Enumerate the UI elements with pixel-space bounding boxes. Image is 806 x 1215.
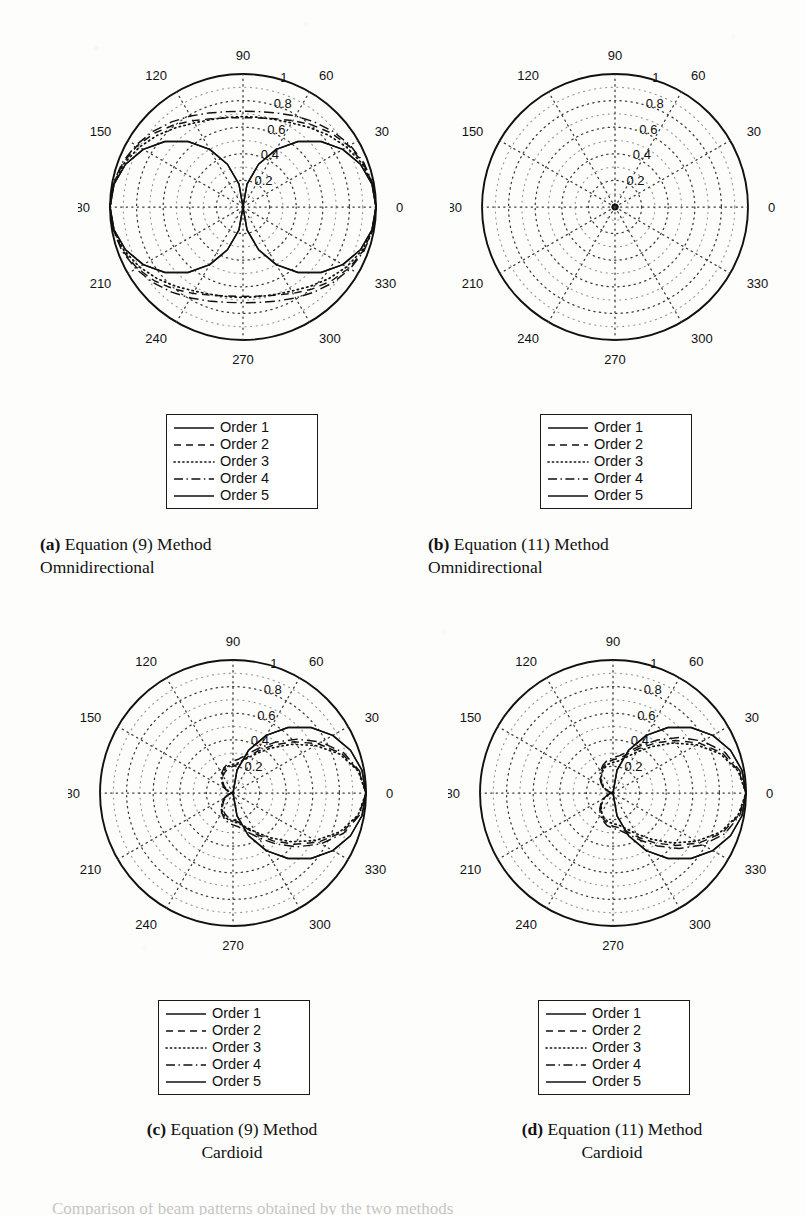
legend-d: Order 1Order 2Order 3Order 4Order 5 — [538, 1000, 690, 1095]
subcaption-a-line1: Equation (9) Method — [65, 534, 212, 554]
grid-spoke-240deg — [547, 793, 614, 908]
legend-line-sample-solid-icon — [547, 422, 589, 434]
grid-spoke-210deg — [128, 207, 243, 274]
subcaption-d: (d) Equation (11) Method Cardioid — [422, 1118, 802, 1164]
grid-spoke-330deg — [233, 793, 348, 860]
legend-a: Order 1Order 2Order 3Order 4Order 5 — [166, 414, 318, 509]
legend-row-1: Order 1 — [545, 1005, 682, 1022]
radial-label-0.2: 0.2 — [624, 759, 642, 774]
legend-row-2: Order 2 — [165, 1022, 302, 1039]
legend-label-3: Order 3 — [594, 454, 643, 469]
legend-row-5: Order 5 — [547, 487, 684, 504]
radial-label-0.2: 0.2 — [254, 173, 272, 188]
polar-axes-d: 03060901201501802102402703003300.20.40.6… — [448, 628, 778, 958]
radial-label-1: 1 — [280, 70, 287, 85]
subcaption-a-line2: Omnidirectional — [40, 556, 420, 579]
radial-tick-labels: 0.20.40.60.81 — [626, 70, 663, 188]
angle-label-270: 270 — [604, 352, 626, 367]
radial-label-1: 1 — [270, 656, 277, 671]
polar-axes-b: 03060901201501802102402703003300.20.40.6… — [450, 42, 780, 372]
legend-line-sample-dashed-icon — [545, 1025, 587, 1037]
legend-label-2: Order 2 — [594, 437, 643, 452]
angle-label-180: 180 — [68, 786, 80, 801]
subcaption-d-line1: Equation (11) Method — [547, 1119, 702, 1139]
angle-label-150: 150 — [460, 710, 482, 725]
legend-row-3: Order 3 — [173, 453, 310, 470]
legend-line-sample-dotted-icon — [545, 1042, 587, 1054]
legend-label-4: Order 4 — [212, 1057, 261, 1072]
legend-row-1: Order 1 — [173, 419, 310, 436]
grid-spoke-330deg — [243, 207, 358, 274]
legend-line-sample-solid-icon — [165, 1008, 207, 1020]
legend-line-sample-dashed-icon — [547, 439, 589, 451]
radial-label-0.8: 0.8 — [646, 96, 664, 111]
subcaption-a-tag: (a) — [40, 534, 60, 554]
angle-label-30: 30 — [375, 124, 389, 139]
legend-row-2: Order 2 — [545, 1022, 682, 1039]
radial-label-0.4: 0.4 — [633, 147, 651, 162]
polar-grid — [482, 74, 748, 340]
legend-label-1: Order 1 — [220, 420, 269, 435]
angle-label-90: 90 — [606, 634, 620, 649]
legend-row-1: Order 1 — [165, 1005, 302, 1022]
radial-label-0.6: 0.6 — [257, 708, 275, 723]
grid-spoke-120deg — [547, 678, 614, 793]
legend-row-5: Order 5 — [173, 487, 310, 504]
radial-label-0.6: 0.6 — [267, 122, 285, 137]
legend-line-sample-dashdot-icon — [545, 1059, 587, 1071]
angle-label-30: 30 — [747, 124, 761, 139]
subcaption-b: (b) Equation (11) Method Omnidirectional — [428, 533, 806, 579]
angle-label-60: 60 — [319, 68, 333, 83]
radial-label-0.6: 0.6 — [637, 708, 655, 723]
legend-label-2: Order 2 — [212, 1023, 261, 1038]
angle-label-240: 240 — [517, 331, 539, 346]
subcaption-b-line1: Equation (11) Method — [454, 534, 609, 554]
legend-label-3: Order 3 — [212, 1040, 261, 1055]
angle-label-330: 330 — [365, 862, 387, 877]
legend-label-1: Order 1 — [592, 1006, 641, 1021]
legend-b: Order 1Order 2Order 3Order 4Order 5 — [540, 414, 692, 509]
figure-caption-cutoff-text: Comparison of beam patterns obtained by … — [52, 1203, 806, 1215]
legend-label-5: Order 5 — [212, 1074, 261, 1089]
angle-label-60: 60 — [691, 68, 705, 83]
grid-spoke-210deg — [498, 793, 613, 860]
legend-line-sample-solid-icon — [173, 422, 215, 434]
angle-label-180: 180 — [78, 200, 90, 215]
polar-axes-c: 03060901201501802102402703003300.20.40.6… — [68, 628, 398, 958]
legend-label-2: Order 2 — [220, 437, 269, 452]
subcaption-c-line1: Equation (9) Method — [171, 1119, 318, 1139]
subcaption-b-tag: (b) — [428, 534, 449, 554]
legend-line-sample-solid-icon — [545, 1008, 587, 1020]
angle-label-210: 210 — [80, 862, 102, 877]
angle-label-90: 90 — [608, 48, 622, 63]
radial-label-0.4: 0.4 — [631, 733, 649, 748]
angle-label-270: 270 — [602, 938, 624, 953]
angle-label-0: 0 — [768, 200, 775, 215]
legend-line-sample-dashdot-icon — [173, 473, 215, 485]
angle-label-180: 180 — [448, 786, 460, 801]
legend-label-5: Order 5 — [592, 1074, 641, 1089]
radial-label-0.8: 0.8 — [644, 682, 662, 697]
legend-label-4: Order 4 — [220, 471, 269, 486]
legend-label-4: Order 4 — [592, 1057, 641, 1072]
angle-label-270: 270 — [222, 938, 244, 953]
legend-line-sample-dashed-icon — [173, 439, 215, 451]
angle-label-240: 240 — [515, 917, 537, 932]
legend-row-3: Order 3 — [547, 453, 684, 470]
legend-line-sample-dotted-icon — [547, 456, 589, 468]
legend-label-5: Order 5 — [220, 488, 269, 503]
angle-label-240: 240 — [145, 331, 167, 346]
angle-label-120: 120 — [145, 68, 167, 83]
radial-label-1: 1 — [652, 70, 659, 85]
legend-line-sample-dashdot-icon — [547, 473, 589, 485]
polar-axes-a: 03060901201501802102402703003300.20.40.6… — [78, 42, 408, 372]
angle-label-90: 90 — [236, 48, 250, 63]
legend-label-3: Order 3 — [220, 454, 269, 469]
angle-label-30: 30 — [365, 710, 379, 725]
legend-label-3: Order 3 — [592, 1040, 641, 1055]
radial-label-0.8: 0.8 — [274, 96, 292, 111]
polar-plot-d: 03060901201501802102402703003300.20.40.6… — [448, 628, 778, 958]
angle-label-300: 300 — [319, 331, 341, 346]
legend-label-4: Order 4 — [594, 471, 643, 486]
figure-panel-d: 03060901201501802102402703003300.20.40.6… — [448, 628, 778, 958]
